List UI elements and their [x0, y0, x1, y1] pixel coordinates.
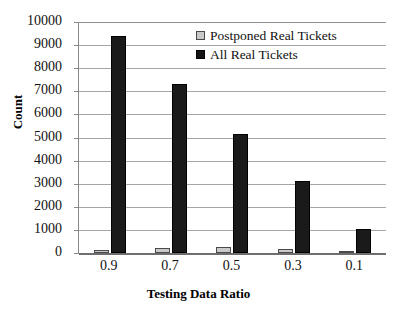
y-axis-tick-label: 0: [10, 245, 62, 259]
bar-postponed-real-tickets-0.3: [278, 249, 293, 253]
bar-all-real-tickets-0.5: [233, 134, 248, 253]
legend-label-all: All Real Tickets: [210, 47, 298, 63]
bar-group: [140, 22, 201, 253]
bar-postponed-real-tickets-0.9: [94, 250, 109, 253]
y-axis-tick-label: 3000: [10, 176, 62, 190]
bar-all-real-tickets-0.1: [356, 229, 371, 253]
y-axis-tick-label: 6000: [10, 106, 62, 120]
legend-swatch-icon-all: [196, 50, 205, 59]
x-axis-tick-label: 0.1: [324, 258, 385, 274]
y-axis-tick-label: 10000: [10, 14, 62, 28]
x-axis-tick-label: 0.5: [201, 258, 262, 274]
legend-item-all-real-tickets: All Real Tickets: [196, 45, 337, 64]
y-axis-tick-labels: 0100020003000400050006000700080009000100…: [6, 0, 62, 311]
bar-postponed-real-tickets-0.1: [339, 251, 354, 253]
y-axis-tick-label: 1000: [10, 222, 62, 236]
y-axis-tick-label: 9000: [10, 37, 62, 51]
y-axis-tick: [74, 253, 79, 254]
x-axis-tick-label: 0.7: [139, 258, 200, 274]
bar-chart: Count 0100020003000400050006000700080009…: [0, 0, 397, 311]
x-axis-title: Testing Data Ratio: [0, 286, 397, 302]
x-axis-tick-label: 0.3: [262, 258, 323, 274]
y-axis-tick-label: 7000: [10, 83, 62, 97]
bar-all-real-tickets-0.3: [295, 181, 310, 253]
bar-all-real-tickets-0.9: [111, 36, 126, 253]
gridline: [79, 253, 386, 255]
bar-all-real-tickets-0.7: [172, 84, 187, 253]
y-axis-tick-label: 5000: [10, 130, 62, 144]
x-axis-tick-label: 0.9: [78, 258, 139, 274]
y-axis-tick-label: 4000: [10, 153, 62, 167]
y-axis-tick-label: 8000: [10, 60, 62, 74]
chart-legend: Postponed Real Tickets All Real Tickets: [196, 26, 337, 64]
y-axis-tick-label: 2000: [10, 199, 62, 213]
legend-item-postponed-real-tickets: Postponed Real Tickets: [196, 26, 337, 45]
legend-label-postponed: Postponed Real Tickets: [210, 28, 337, 44]
bar-postponed-real-tickets-0.7: [155, 248, 170, 253]
bar-group: [79, 22, 140, 253]
legend-swatch-icon-postponed: [196, 31, 205, 40]
bar-postponed-real-tickets-0.5: [216, 247, 231, 253]
